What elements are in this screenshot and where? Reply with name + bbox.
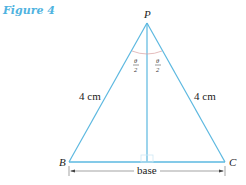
angle-left-denominator: 2 bbox=[134, 66, 138, 73]
arrowhead-right-icon bbox=[219, 170, 224, 173]
vertex-c-label: C bbox=[229, 156, 237, 168]
base-label: base bbox=[137, 164, 157, 176]
vertex-p-label: P bbox=[143, 8, 151, 20]
angle-right-denominator: 2 bbox=[156, 66, 160, 73]
arrowhead-left-icon bbox=[70, 170, 75, 173]
angle-left-numerator: θ bbox=[134, 57, 138, 64]
angle-right-numerator: θ bbox=[156, 57, 160, 64]
triangle-diagram: P B C 4 cm 4 cm θ 2 θ 2 base bbox=[0, 0, 246, 185]
vertex-b-label: B bbox=[59, 156, 66, 168]
side-label-left: 4 cm bbox=[79, 90, 101, 102]
side-label-right: 4 cm bbox=[194, 90, 216, 102]
